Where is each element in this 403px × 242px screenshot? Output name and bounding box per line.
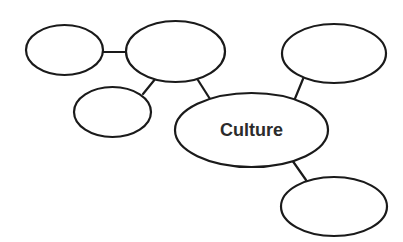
diagram-canvas: Culture	[0, 0, 403, 242]
connector-top-right-to-center	[294, 79, 303, 101]
center-node-culture-label: Culture	[220, 120, 283, 140]
node-bottom-right[interactable]	[281, 177, 387, 236]
node-top-right-shape[interactable]	[282, 24, 386, 83]
node-left-lower-shape[interactable]	[74, 87, 151, 137]
node-top-left[interactable]	[26, 25, 103, 75]
center-node-culture[interactable]: Culture	[175, 93, 328, 167]
node-top-right[interactable]	[282, 24, 386, 83]
node-bottom-right-shape[interactable]	[281, 177, 387, 236]
nodes-layer: Culture	[26, 21, 387, 236]
node-left-lower[interactable]	[74, 87, 151, 137]
node-top-middle[interactable]	[126, 21, 225, 82]
node-top-middle-shape[interactable]	[126, 21, 225, 82]
concept-map-diagram: Culture	[0, 0, 403, 242]
connector-top-middle-to-center	[196, 77, 210, 99]
connector-center-to-bottom-right	[292, 160, 306, 180]
node-top-left-shape[interactable]	[26, 25, 103, 75]
connector-top-middle-to-left-lower	[143, 78, 156, 94]
